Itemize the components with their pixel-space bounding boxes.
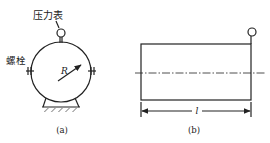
bolt-right-icon [88, 67, 96, 75]
caption-a: (a) [56, 125, 68, 135]
radius-label: R [60, 66, 68, 76]
bolt-left-icon [26, 67, 34, 75]
figure-b-cylinder-vessel: l (b) [135, 28, 266, 135]
diagram-canvas: 压力表 螺栓 R (a) [0, 0, 270, 143]
ground-hatch [44, 108, 78, 112]
caption-b: (b) [188, 125, 200, 135]
cylinder-body [141, 44, 251, 100]
bolt-label: 螺栓 [6, 55, 26, 66]
gauge-leader-line [56, 21, 59, 28]
pressure-gauge-icon [57, 29, 65, 37]
length-label: l [196, 106, 199, 116]
figure-a-sphere-vessel: 压力表 螺栓 R (a) [6, 9, 96, 135]
pressure-gauge-label: 压力表 [33, 9, 63, 21]
support-base [42, 98, 80, 112]
pressure-gauge-icon [248, 28, 256, 36]
